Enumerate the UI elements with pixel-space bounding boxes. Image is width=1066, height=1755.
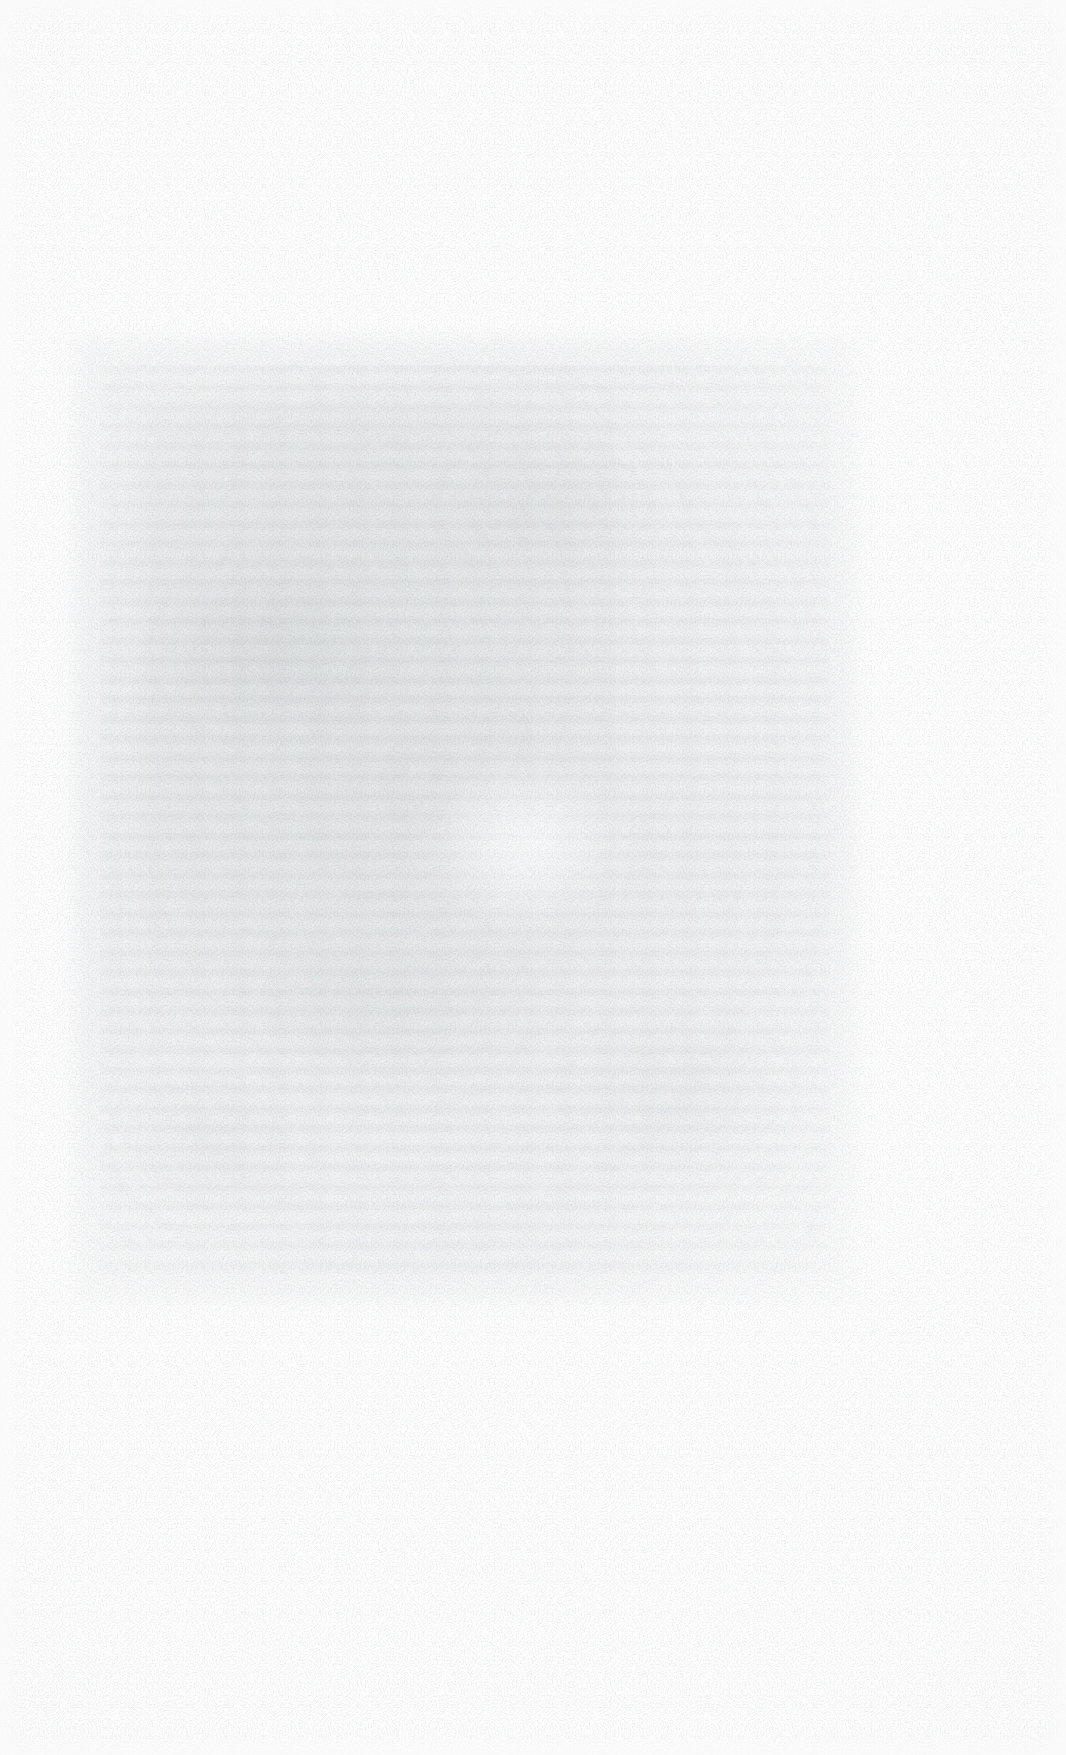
scanned-page <box>0 0 1066 1755</box>
paper-fiber-overlay <box>0 0 1066 1755</box>
